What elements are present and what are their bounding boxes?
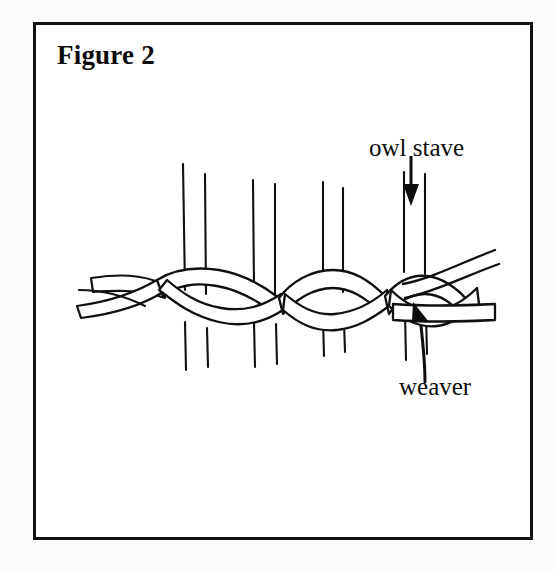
label-weaver: weaver	[399, 373, 471, 401]
label-owl-stave: owl stave	[369, 134, 464, 162]
weaving-diagram	[33, 22, 533, 540]
weaver-right-exit-flat	[393, 304, 495, 322]
arrow-down-head	[403, 184, 419, 206]
stave-1-right-edge-lower	[207, 328, 208, 367]
stave-2-left-edge-lower	[254, 322, 255, 367]
stave-2-left-edge-upper	[253, 180, 254, 288]
arrow-down-icon	[403, 156, 419, 206]
scanned-page: Figure 2	[0, 0, 557, 572]
weaver-right-flat-ribbon	[393, 304, 495, 322]
stave-1-left-edge-lower	[185, 322, 186, 370]
stave-2-right-edge-lower	[276, 324, 277, 364]
